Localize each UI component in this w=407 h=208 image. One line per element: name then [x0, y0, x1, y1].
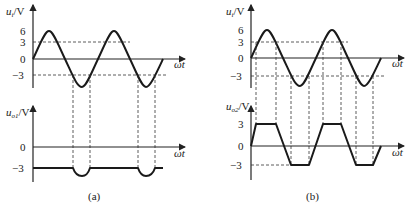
- b-output-y-label: uo2/V: [226, 100, 250, 114]
- caption-b: (b): [306, 190, 319, 203]
- a-tick-minus3: −3: [12, 69, 24, 81]
- a-out-tick-minus3: −3: [12, 162, 24, 174]
- a-tick-3: 3: [20, 36, 26, 48]
- b-input-x-label: ωt: [392, 57, 404, 69]
- a-tick-0: 0: [20, 53, 26, 65]
- b-out-tick-3: 3: [238, 118, 244, 130]
- b-tick-6: 6: [238, 24, 244, 36]
- caption-a: (a): [88, 190, 101, 203]
- a-output-y-label: uo1/V: [6, 106, 30, 120]
- a-input-x-label: ωt: [174, 58, 186, 70]
- a-input-y-label: ui/V: [6, 5, 25, 19]
- b-out-tick-0: 0: [238, 140, 244, 152]
- panel-a: ui/V 6 3 0 −3 ωt uo1/V 0 −3 ωt (a): [6, 5, 186, 203]
- b-output-x-label: ωt: [392, 146, 404, 158]
- figure-canvas: ui/V 6 3 0 −3 ωt uo1/V 0 −3 ωt (a) ui/V: [0, 0, 407, 208]
- a-out-tick-0: 0: [20, 141, 26, 153]
- a-output-waveform: [33, 168, 163, 176]
- b-output-waveform: [251, 124, 381, 165]
- b-tick-minus3: −3: [230, 70, 242, 82]
- b-tick-3: 3: [238, 36, 244, 48]
- b-tick-0: 0: [238, 52, 244, 64]
- a-output-x-label: ωt: [174, 147, 186, 159]
- b-out-tick-minus3: −3: [230, 159, 242, 171]
- b-input-y-label: ui/V: [226, 5, 245, 19]
- panel-b: ui/V 6 3 0 −3 ωt uo2/V 3 0 −3 ωt (b): [226, 5, 404, 203]
